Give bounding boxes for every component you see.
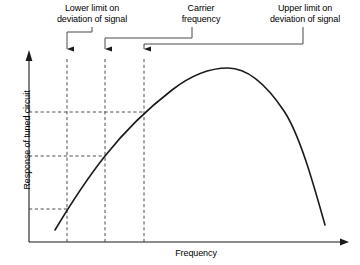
leader-carrier-frequency — [105, 27, 192, 49]
leader-lower-limit — [67, 27, 92, 49]
x-axis-arrowhead — [340, 239, 349, 246]
tuned-circuit-response-figure: Lower limit on deviation of signal Carri… — [0, 0, 360, 265]
diagram-canvas — [0, 0, 360, 265]
y-axis-label: Response of tuned circuit — [22, 65, 32, 215]
projection-lines-group — [29, 58, 144, 242]
x-axis-label: Frequency — [150, 248, 242, 258]
y-axis-arrowhead — [26, 50, 33, 61]
annotation-label-lower-limit: Lower limit on deviation of signal — [38, 3, 146, 25]
tuned-circuit-response-curve — [55, 68, 325, 230]
annotation-leaders-group — [67, 27, 303, 49]
annotation-label-upper-limit: Upper limit on deviation of signal — [250, 3, 360, 25]
annotation-label-carrier-frequency: Carrier frequency — [158, 3, 244, 25]
